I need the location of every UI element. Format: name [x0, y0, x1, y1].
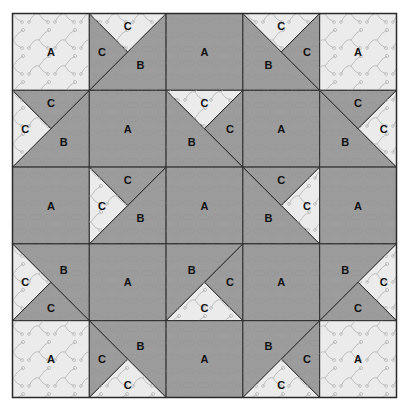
piece-label-c: C: [201, 302, 209, 314]
piece-label-c: C: [380, 276, 388, 288]
piece-label-c: C: [277, 174, 285, 186]
piece-label-b: B: [137, 212, 145, 224]
piece-label-a: A: [354, 353, 362, 365]
piece-label-b: B: [137, 59, 145, 71]
piece-label-a: A: [124, 123, 132, 135]
piece-label-b: B: [341, 264, 349, 276]
piece-label-b: B: [137, 340, 145, 352]
piece-label-b: B: [265, 340, 273, 352]
piece-label-b: B: [341, 136, 349, 148]
piece-label-c: C: [303, 353, 311, 365]
piece-label-c: C: [277, 379, 285, 391]
piece-label-c: C: [98, 353, 106, 365]
piece-label-c: C: [47, 97, 55, 109]
piece-label-a: A: [201, 46, 209, 58]
piece-label-c: C: [47, 302, 55, 314]
piece-label-c: C: [124, 174, 132, 186]
piece-label-c: C: [21, 123, 29, 135]
piece-label-c: C: [98, 46, 106, 58]
piece-label-a: A: [277, 123, 285, 135]
piece-label-c: C: [354, 97, 362, 109]
piece-label-c: C: [303, 200, 311, 212]
piece-label-c: C: [124, 379, 132, 391]
piece-label-c: C: [380, 123, 388, 135]
quilt-block-diagram: ABCCABCCABCCABCCABCCABCCABCCABCCABCCABCC…: [0, 0, 406, 408]
piece-label-b: B: [60, 136, 68, 148]
piece-label-b: B: [60, 264, 68, 276]
piece-label-b: B: [188, 136, 196, 148]
piece-label-c: C: [124, 20, 132, 32]
piece-label-c: C: [303, 46, 311, 58]
piece-label-a: A: [354, 200, 362, 212]
piece-label-a: A: [47, 46, 55, 58]
piece-label-b: B: [265, 59, 273, 71]
piece-label-a: A: [201, 353, 209, 365]
piece-label-a: A: [47, 353, 55, 365]
piece-label-c: C: [226, 123, 234, 135]
piece-label-a: A: [277, 276, 285, 288]
piece-label-c: C: [354, 302, 362, 314]
piece-label-a: A: [124, 276, 132, 288]
piece-label-c: C: [98, 200, 106, 212]
piece-label-a: A: [201, 200, 209, 212]
piece-label-c: C: [226, 276, 234, 288]
piece-label-b: B: [188, 264, 196, 276]
piece-label-c: C: [277, 20, 285, 32]
piece-label-c: C: [201, 97, 209, 109]
piece-label-a: A: [47, 200, 55, 212]
piece-label-b: B: [265, 212, 273, 224]
quilt-grid: ABCCABCCABCCABCCABCCABCCABCCABCCABCCABCC…: [13, 14, 397, 398]
piece-label-a: A: [354, 46, 362, 58]
piece-label-c: C: [21, 276, 29, 288]
